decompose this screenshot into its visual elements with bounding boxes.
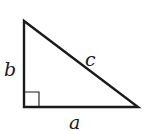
triangle-shape	[24, 21, 138, 107]
right-triangle-diagram: b c a	[0, 0, 149, 131]
label-b: b	[4, 58, 16, 80]
label-a: a	[69, 111, 80, 131]
right-angle-marker	[24, 92, 39, 107]
label-c: c	[85, 48, 96, 70]
